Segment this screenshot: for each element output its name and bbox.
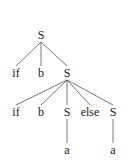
node-s: S	[64, 106, 71, 118]
tree-edge	[67, 80, 113, 105]
node-s: S	[64, 67, 71, 79]
tree-edges	[0, 0, 128, 160]
tree-edge	[16, 42, 41, 66]
tree-edge	[41, 80, 67, 105]
parse-tree-diagram: S if b S if b S else S a a	[0, 0, 128, 160]
node-a: a	[110, 144, 115, 156]
node-b: b	[38, 67, 44, 79]
node-if: if	[12, 67, 19, 79]
node-b: b	[38, 106, 44, 118]
node-if: if	[12, 106, 19, 118]
node-else: else	[81, 106, 100, 118]
node-s: S	[110, 106, 117, 118]
node-root-s: S	[38, 29, 45, 41]
tree-edge	[67, 80, 90, 105]
tree-edge	[41, 42, 67, 66]
tree-edge	[16, 80, 67, 105]
node-a: a	[64, 144, 69, 156]
